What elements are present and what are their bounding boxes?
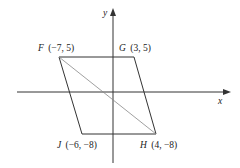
x-axis-arrow-icon <box>223 89 231 95</box>
point-j-coords: (−6, −8) <box>66 140 97 151</box>
point-g-name: G <box>119 43 126 53</box>
point-j-name: J <box>57 140 62 150</box>
y-axis-label: y <box>102 8 108 18</box>
y-axis-arrow-icon <box>110 8 116 16</box>
point-g-label: G (3, 5) <box>119 43 151 54</box>
point-f-coords: (−7, 5) <box>48 43 74 54</box>
coordinate-diagram: y x F (−7, 5) G (3, 5) J (−6, −8) H (4, … <box>0 0 240 168</box>
point-f-label: F (−7, 5) <box>37 43 74 54</box>
point-h-name: H <box>139 140 148 150</box>
point-h-coords: (4, −8) <box>151 140 177 151</box>
point-h-label: H (4, −8) <box>139 140 177 151</box>
x-axis-label: x <box>217 96 223 106</box>
point-f-name: F <box>37 43 44 53</box>
diagonal-fh <box>59 57 156 134</box>
point-j-label: J (−6, −8) <box>57 140 97 151</box>
point-g-coords: (3, 5) <box>130 43 151 54</box>
